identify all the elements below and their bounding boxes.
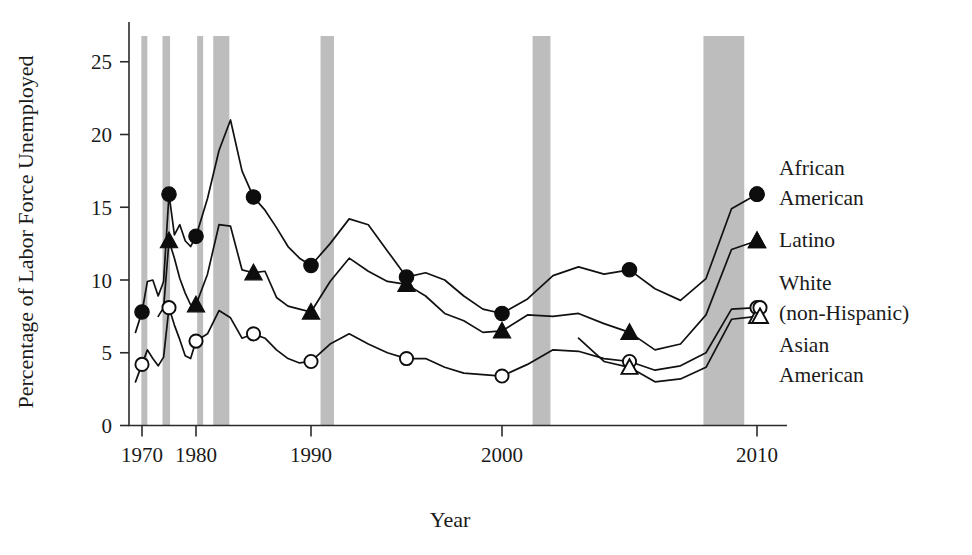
x-tick-label: 1980 (175, 443, 217, 467)
series-marker (246, 190, 260, 204)
series-label: (non-Hispanic) (779, 301, 909, 325)
y-tick-label: 25 (91, 50, 112, 74)
series-labels-group: AfricanAmericanLatinoWhite(non-Hispanic)… (748, 156, 909, 387)
series-marker (162, 301, 175, 314)
recession-band (533, 36, 551, 426)
x-tick-label: 2010 (736, 443, 778, 467)
series-marker (304, 258, 318, 272)
y-axis-group: 0510152025 (91, 50, 129, 438)
x-tick-label: 2000 (481, 443, 523, 467)
x-tick-label: 1970 (121, 443, 163, 467)
series-marker (189, 229, 203, 243)
y-tick-label: 20 (91, 123, 112, 147)
x-axis-group: 19701980199020002010 (121, 426, 778, 467)
x-tick-label: 1990 (290, 443, 332, 467)
unemployment-line-chart: 0510152025 19701980199020002010 AfricanA… (0, 0, 972, 555)
y-tick-label: 5 (102, 341, 113, 365)
series-marker (304, 355, 317, 368)
series-marker (495, 306, 509, 320)
series-marker (189, 335, 202, 348)
series-label: American (779, 363, 864, 387)
x-axis-title: Year (430, 507, 471, 532)
y-tick-label: 15 (91, 196, 112, 220)
series-marker (135, 305, 149, 319)
recession-band (213, 36, 229, 426)
series-marker (495, 369, 508, 382)
series-label: Asian (779, 333, 829, 357)
y-tick-label: 0 (102, 414, 113, 438)
legend-marker (750, 187, 764, 201)
data-series (135, 301, 763, 383)
series-label: African (779, 156, 845, 180)
series-marker (400, 352, 413, 365)
series-marker (162, 187, 176, 201)
chart-container: 0510152025 19701980199020002010 AfricanA… (0, 0, 972, 555)
series-label: White (779, 271, 832, 295)
legend-marker (748, 232, 765, 248)
y-axis-title: Percentage of Labor Force Unemployed (13, 55, 38, 408)
series-marker (621, 324, 638, 340)
series-group (135, 120, 766, 383)
series-marker (247, 327, 260, 340)
series-marker (135, 358, 148, 371)
series-label: American (779, 186, 864, 210)
series-marker (622, 263, 636, 277)
recession-band (321, 36, 334, 426)
y-tick-label: 10 (91, 269, 112, 293)
series-label: Latino (779, 228, 835, 252)
series-marker (493, 322, 510, 338)
